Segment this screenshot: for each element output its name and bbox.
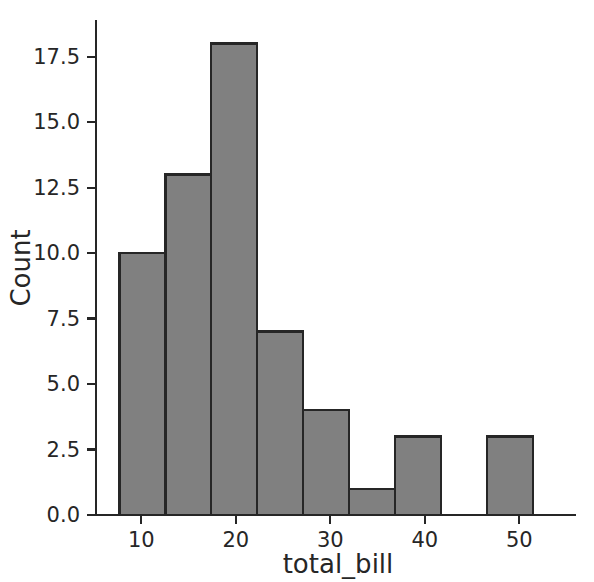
y-tick-label: 17.5 — [33, 45, 80, 69]
y-axis-title: Count — [6, 229, 36, 306]
y-tick-label: 0.0 — [47, 503, 80, 527]
x-tick-label: 50 — [506, 528, 533, 552]
histogram-bar — [487, 436, 533, 515]
y-tick-label: 5.0 — [47, 372, 80, 396]
histogram-bar — [257, 332, 303, 515]
y-tick-label: 12.5 — [33, 176, 80, 200]
y-tick-label: 2.5 — [47, 438, 80, 462]
x-axis-title: total_bill — [283, 549, 394, 579]
y-tick-label: 10.0 — [33, 241, 80, 265]
histogram-bar — [395, 436, 441, 515]
histogram-bar — [349, 489, 395, 515]
histogram-bar — [165, 175, 211, 515]
x-tick-label: 10 — [128, 528, 155, 552]
chart-canvas: 1020304050 0.02.55.07.510.012.515.017.5 … — [0, 0, 594, 582]
x-tick-label: 40 — [411, 528, 438, 552]
y-tick-label: 15.0 — [33, 110, 80, 134]
histogram-figure: 1020304050 0.02.55.07.510.012.515.017.5 … — [0, 0, 594, 582]
x-axis-ticks — [141, 515, 519, 524]
y-axis-ticks — [87, 57, 96, 515]
y-tick-label: 7.5 — [47, 307, 80, 331]
histogram-bar — [303, 410, 349, 515]
bars-group — [119, 44, 532, 515]
histogram-bar — [211, 44, 257, 515]
x-tick-label: 20 — [222, 528, 249, 552]
histogram-bar — [119, 253, 165, 515]
y-axis-tick-labels: 0.02.55.07.510.012.515.017.5 — [33, 45, 80, 527]
